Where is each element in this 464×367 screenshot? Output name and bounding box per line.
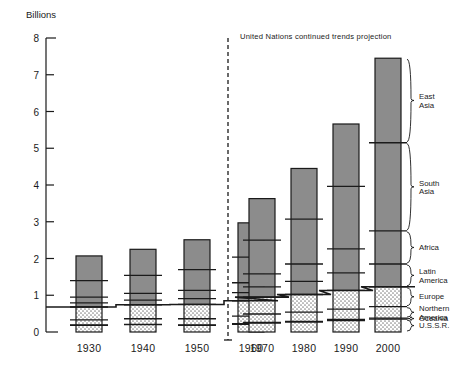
segment-u-s-s-r [291,322,317,332]
segment-east-asia [249,199,275,241]
y-axis-unit-label: Billions [26,9,56,20]
y-tick-labels: 8 7 6 5 4 3 2 1 0 [33,33,39,338]
segment-northern-america [130,319,156,325]
bar-1930 [70,256,108,332]
segment-south-asia [184,270,210,291]
segment-u-s-s-r [249,323,275,332]
y-tick-3: 3 [33,217,39,228]
y-tick-5: 5 [33,143,39,154]
segment-africa [333,249,359,273]
segment-africa [375,231,401,264]
segment-europe [76,307,102,320]
bar-1970 [243,199,281,332]
segment-africa [130,293,156,300]
segment-africa [291,264,317,281]
bar-2000 [369,58,407,332]
y-tick-6: 6 [33,107,39,118]
segment-east-asia [333,124,359,186]
segment-northern-america [184,319,210,325]
segment-europe [375,287,401,307]
segment-latin-america [333,273,359,291]
bar-1940 [124,249,162,332]
segment-europe [333,290,359,309]
segment-south-asia [333,186,359,248]
segment-latin-america [249,287,275,297]
segment-u-s-s-r [184,325,210,332]
segment-europe [130,305,156,319]
segment-south-asia [130,275,156,293]
segment-u-s-s-r [375,319,401,332]
region-label-europe: Europe [419,292,444,301]
segment-northern-america [333,309,359,319]
population-chart: Billions 8 7 6 5 4 3 2 1 0 United Nation… [0,0,464,367]
segment-south-asia [76,281,102,298]
segment-south-asia [291,219,317,264]
region-label-south-asia-line2: Asia [419,187,435,196]
y-tick-4: 4 [33,180,39,191]
segment-africa [184,290,210,298]
year-label-1950: 1950 [185,342,210,354]
y-tick-7: 7 [33,70,39,81]
segment-south-asia [249,240,275,274]
segment-east-asia [291,168,317,219]
segment-east-asia [184,240,210,270]
region-label-latin-america-line2: America [419,276,448,285]
segment-latin-america [291,281,317,294]
year-label-2000: 2000 [376,342,401,354]
segment-northern-america [375,307,401,318]
year-label-1980: 1980 [292,342,317,354]
segment-east-asia [130,249,156,275]
segment-east-asia [76,256,102,281]
segment-europe [291,295,317,313]
segment-europe [184,304,210,318]
bar-1950 [178,240,216,332]
region-label-northern-america-line2: America [419,313,448,322]
segment-u-s-s-r [130,325,156,332]
y-tick-1: 1 [33,290,39,301]
segment-latin-america [184,299,210,305]
year-label-1990: 1990 [334,342,359,354]
segment-northern-america [291,312,317,321]
year-label-1940: 1940 [131,342,156,354]
segment-africa [249,274,275,287]
segment-africa [76,297,102,303]
y-tick-0: 0 [33,327,39,338]
segment-northern-america [76,320,102,325]
region-label-east-asia-line2: Asia [419,101,435,110]
segment-northern-america [249,314,275,322]
segment-east-asia [375,58,401,143]
year-label-1930: 1930 [77,342,102,354]
segment-u-s-s-r [76,325,102,332]
segment-u-s-s-r [333,321,359,332]
y-tick-8: 8 [33,33,39,44]
bar-1990 [327,124,365,332]
year-label-1970: 1970 [250,342,275,354]
segment-south-asia [375,143,401,231]
region-label-africa: Africa [419,243,440,252]
projection-note-label: United Nations continued trends projecti… [240,32,392,41]
bar-1980 [285,168,323,332]
y-tick-2: 2 [33,254,39,265]
segment-latin-america [375,264,401,287]
